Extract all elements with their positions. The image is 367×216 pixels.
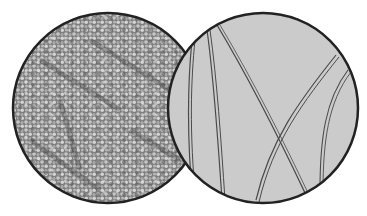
- microscope-figure: [0, 0, 367, 216]
- right-magnified-view: [168, 13, 358, 203]
